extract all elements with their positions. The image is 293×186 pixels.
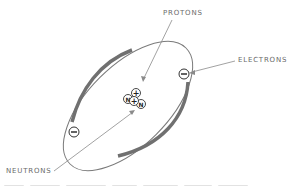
- orbit-front-right: [118, 82, 188, 156]
- neutrons-label: NEUTRONS: [6, 167, 52, 175]
- atom-diagram: N N + +: [0, 0, 293, 186]
- neutrons-pointer: [54, 112, 133, 171]
- electrons-pointer: [192, 61, 235, 72]
- protons-pointer: [143, 20, 172, 80]
- protons-label: PROTONS: [163, 9, 203, 17]
- orbit-front-left: [72, 50, 132, 122]
- electrons-label: ELECTRONS: [238, 56, 287, 64]
- faint-caption-line: [4, 176, 289, 182]
- svg-text:N: N: [138, 101, 143, 108]
- electron-right: [179, 69, 189, 79]
- electron-left: [69, 127, 79, 137]
- nucleus: N N + +: [124, 89, 146, 109]
- svg-text:+: +: [131, 97, 138, 106]
